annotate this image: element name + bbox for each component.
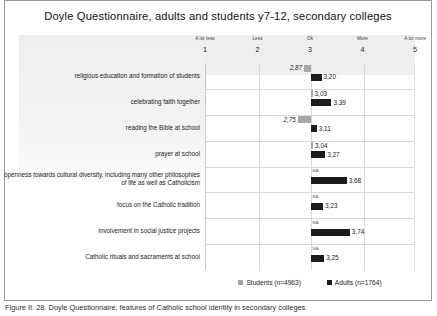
x-axis-tick-number: 3: [280, 44, 340, 56]
x-axis-tick-number: 1: [175, 44, 235, 56]
legend-swatch-icon: [327, 280, 332, 285]
chart-row: reading the Bible at school2,753,11: [206, 115, 414, 141]
category-label: focus on the Catholic tradition: [4, 201, 200, 209]
x-axis-tick-number: 4: [333, 44, 393, 56]
x-axis-tick-5: A lot more5: [385, 36, 437, 56]
x-axis-tick-3: Ok3: [280, 36, 340, 56]
bar-value-label-na: N/A: [313, 246, 319, 253]
bar-students: [311, 142, 313, 149]
chart-row: focus on the Catholic traditionN/A3,23: [206, 192, 414, 218]
bar-students: [304, 65, 311, 72]
legend-item-adults[interactable]: Adults (n=1764): [327, 279, 382, 286]
legend-label: Adults (n=1764): [335, 279, 382, 286]
category-label: prayer at school: [4, 150, 200, 158]
bar-value-label: 2,75: [278, 116, 296, 123]
bar-adults: [311, 203, 323, 210]
x-axis-tick-caption: A lot more: [385, 36, 437, 42]
bar-value-label: 3,39: [333, 99, 345, 106]
category-label: celebrating faith together: [4, 98, 200, 106]
bar-value-label: 3,04: [315, 142, 327, 149]
chart-legend: Students (n=4963)Adults (n=1764): [205, 275, 415, 289]
chart-row: involvement in social justice projectsN/…: [206, 218, 414, 244]
chart-area: A lot less1Less2Ok3More4A lot more5 reli…: [19, 32, 419, 297]
plot-area: religious education and formation of stu…: [205, 63, 415, 270]
figure-frame: Doyle Questionnaire, adults and students…: [4, 0, 432, 301]
chart-row: prayer at school3,043,27: [206, 141, 414, 167]
bar-value-label: 3,25: [326, 254, 338, 261]
chart-row: celebrating faith together3,033,39: [206, 89, 414, 115]
bar-adults: [311, 99, 331, 106]
bar-students: [298, 116, 311, 123]
x-axis-tick-1: A lot less1: [175, 36, 235, 56]
bar-value-label: 3,27: [327, 151, 339, 158]
chart-title: Doyle Questionnaire, adults and students…: [5, 10, 431, 22]
bar-adults: [311, 255, 324, 262]
bar-adults: [311, 177, 347, 184]
legend-item-students[interactable]: Students (n=4963): [238, 279, 300, 286]
legend-swatch-icon: [238, 280, 243, 285]
bar-value-label: 3,11: [319, 125, 331, 132]
x-axis-tick-caption: A lot less: [175, 36, 235, 42]
category-label: involvement in social justice projects: [4, 227, 200, 235]
category-label: religious education and formation of stu…: [4, 72, 200, 80]
bar-value-label: 3,68: [349, 177, 361, 184]
bar-value-label: 3,03: [315, 90, 327, 97]
category-label: openness towards cultural diversity, inc…: [4, 171, 200, 186]
x-axis-tick-caption: Ok: [280, 36, 340, 42]
x-axis-tick-2: Less2: [228, 36, 288, 56]
legend-label: Students (n=4963): [246, 279, 300, 286]
bar-adults: [311, 125, 317, 132]
bar-value-label: 3,74: [352, 228, 364, 235]
chart-row: religious education and formation of stu…: [206, 63, 414, 89]
category-label: Catholic rituals and sacraments at schoo…: [4, 253, 200, 261]
x-axis-tick-caption: Less: [228, 36, 288, 42]
x-axis-tick-caption: More: [333, 36, 393, 42]
bar-value-label-na: N/A: [313, 194, 319, 201]
x-axis-tick-row: A lot less1Less2Ok3More4A lot more5: [205, 36, 415, 62]
x-axis-tick-number: 5: [385, 44, 437, 56]
bar-adults: [311, 74, 322, 81]
bar-students: [311, 90, 313, 97]
category-label: reading the Bible at school: [4, 124, 200, 132]
chart-row: openness towards cultural diversity, inc…: [206, 167, 414, 193]
bar-value-label: 3,20: [324, 73, 336, 80]
label-gutter-shading: [19, 35, 205, 183]
bar-value-label-na: N/A: [313, 220, 319, 227]
x-axis-tick-number: 2: [228, 44, 288, 56]
x-axis-tick-4: More4: [333, 36, 393, 56]
bar-value-label: 3,23: [325, 202, 337, 209]
figure-caption: Figure II. 28. Doyle Questionnaire, feat…: [5, 303, 433, 312]
bar-adults: [311, 229, 350, 236]
chart-row: Catholic rituals and sacraments at schoo…: [206, 244, 414, 270]
bar-value-label: 2,87: [284, 64, 302, 71]
bar-value-label-na: N/A: [313, 168, 319, 175]
bar-adults: [311, 151, 325, 158]
